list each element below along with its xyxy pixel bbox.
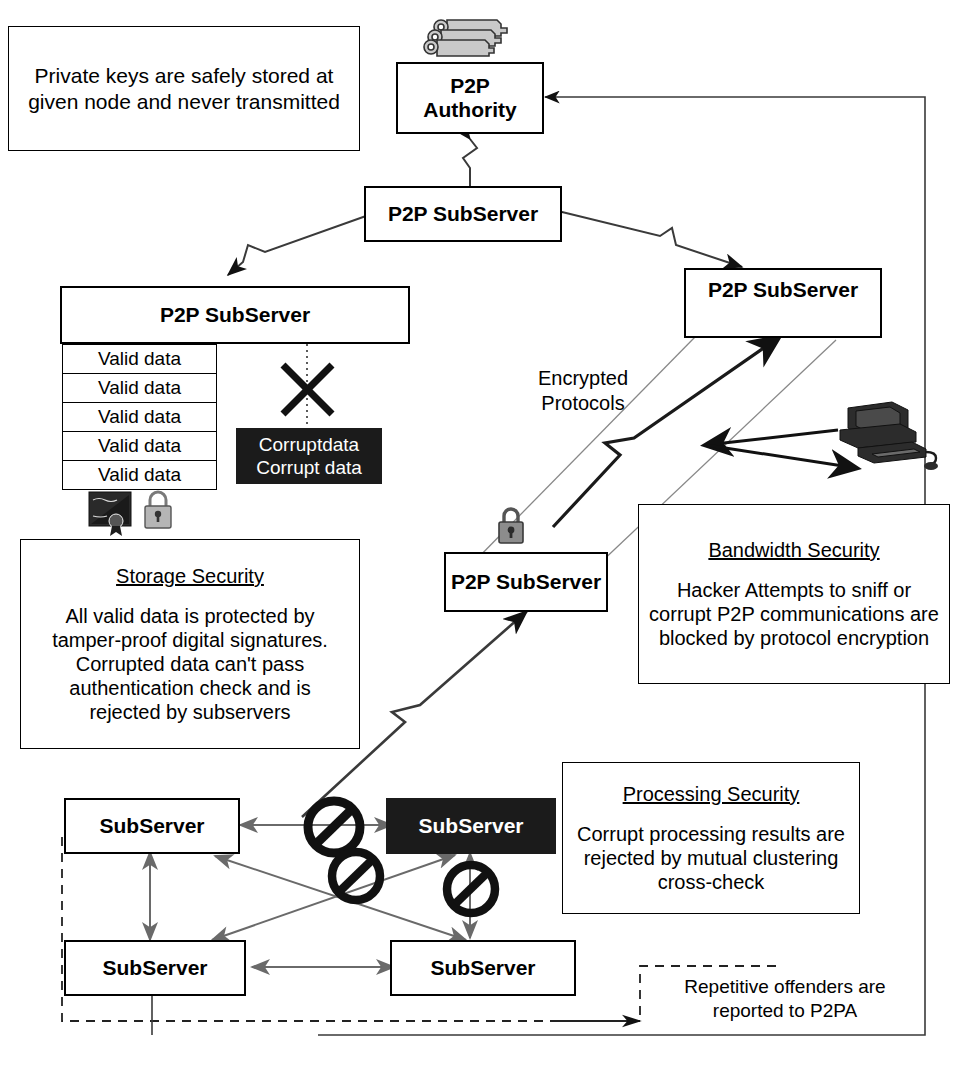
valid-data-row: Valid data [63, 403, 216, 432]
label-repetitive-offenders-line2: reported to P2PA [655, 999, 915, 1023]
node-cluster-subserver-c-label: SubServer [102, 956, 207, 980]
reject-cross-icon [283, 365, 332, 414]
valid-data-row: Valid data [63, 345, 216, 374]
valid-data-row: Valid data [63, 432, 216, 461]
padlock-icon [494, 505, 528, 547]
node-cluster-subserver-d[interactable]: SubServer [390, 940, 576, 996]
label-repetitive-offenders-line1: Repetitive offenders are [655, 975, 915, 999]
corrupt-data-box: Corruptdata Corrupt data [236, 428, 382, 484]
node-p2p-subserver-top[interactable]: P2P SubServer [364, 186, 562, 242]
panel-bandwidth-security-title: Bandwidth Security [708, 538, 879, 562]
node-cluster-subserver-a[interactable]: SubServer [64, 798, 240, 854]
diagram-canvas: P2P Authority P2P SubServer P2P SubServe… [0, 0, 980, 1074]
label-encrypted-protocols: Encrypted Protocols [508, 366, 658, 416]
node-p2p-subserver-mid[interactable]: P2P SubServer [444, 552, 608, 612]
panel-storage-security: Storage Security All valid data is prote… [20, 539, 360, 749]
valid-data-list: Valid data Valid data Valid data Valid d… [62, 344, 217, 490]
panel-processing-security-body: Corrupt processing results are rejected … [575, 822, 847, 894]
topsubserver-rightsubserver-wire [562, 212, 742, 267]
note-private-keys-text: Private keys are safely stored at given … [23, 63, 345, 113]
panel-bandwidth-security-body: Hacker Attempts to sniff or corrupt P2P … [649, 578, 939, 650]
label-repetitive-offenders: Repetitive offenders are reported to P2P… [655, 975, 915, 1023]
node-p2p-subserver-top-label: P2P SubServer [388, 202, 538, 226]
node-cluster-subserver-a-label: SubServer [99, 814, 204, 838]
node-cluster-subserver-c[interactable]: SubServer [64, 940, 246, 996]
panel-storage-security-title: Storage Security [116, 564, 264, 588]
corrupt-data-line1: Corruptdata [259, 433, 359, 456]
certificate-icon [88, 490, 146, 538]
node-p2p-subserver-mid-label: P2P SubServer [451, 570, 601, 594]
panel-bandwidth-security: Bandwidth Security Hacker Attempts to sn… [638, 504, 950, 684]
node-p2p-authority-line2: Authority [423, 98, 516, 122]
topsubserver-leftsubserver-wire [228, 216, 366, 275]
node-cluster-subserver-b-label: SubServer [418, 814, 523, 838]
node-p2p-subserver-left[interactable]: P2P SubServer [60, 286, 410, 344]
padlock-icon [141, 488, 175, 532]
hacker-computer-icon [828, 398, 938, 470]
node-p2p-authority[interactable]: P2P Authority [396, 62, 544, 134]
node-p2p-subserver-right[interactable]: P2P SubServer [684, 268, 882, 338]
keyring-icon [421, 14, 519, 64]
corrupt-data-line2: Corrupt data [256, 456, 362, 479]
no-entry-icon [325, 845, 387, 907]
node-cluster-subserver-d-label: SubServer [430, 956, 535, 980]
node-p2p-subserver-left-label: P2P SubServer [160, 303, 310, 327]
authority-topsubserver-wire [463, 139, 477, 187]
node-p2p-authority-line1: P2P [450, 74, 490, 98]
note-private-keys: Private keys are safely stored at given … [8, 26, 360, 151]
panel-processing-security-title: Processing Security [623, 782, 800, 806]
no-entry-icon [440, 858, 502, 920]
node-cluster-subserver-b-corrupt[interactable]: SubServer [386, 798, 556, 854]
node-p2p-subserver-right-label: P2P SubServer [708, 278, 858, 302]
label-encrypted-protocols-line2: Protocols [508, 391, 658, 416]
panel-storage-security-body: All valid data is protected by tamper-pr… [33, 604, 347, 724]
label-encrypted-protocols-line1: Encrypted [508, 366, 658, 391]
panel-processing-security: Processing Security Corrupt processing r… [562, 762, 860, 914]
valid-data-row: Valid data [63, 461, 216, 489]
valid-data-row: Valid data [63, 374, 216, 403]
